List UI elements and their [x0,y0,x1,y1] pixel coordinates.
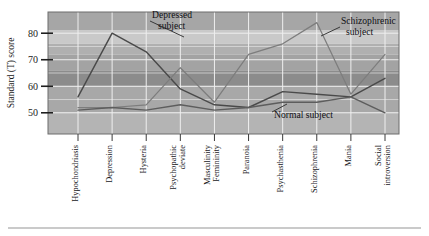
x-category-label-3-line1: Psychopathic [169,145,178,190]
annotation-schizophrenic-line2: subject [346,26,374,37]
x-category-label-9-line2: introversion [383,144,392,185]
annotation-depressed-line2: subject [158,20,186,31]
annotation-schizophrenic-line1: Schizophrenic [341,15,396,26]
y-tick-label-50: 50 [28,107,38,118]
x-category-label-0: Hypochondriasis [71,145,80,202]
plot-band-6 [48,113,399,134]
annotation-depressed-line1: Depressed [152,9,192,20]
y-tick-label-60: 60 [28,81,38,92]
x-category-label-1: Depression [105,144,114,182]
plot-band-2 [48,44,399,55]
x-category-label-4-line1: Masculinity [203,144,212,185]
y-axis-label: Standard (T) score [6,38,17,109]
x-category-label-9-line1: Social [374,144,383,166]
x-category-label-3-line2: deviate [178,145,187,169]
annotation-normal-line1: Normal subject [274,109,333,120]
mmpi-profile-chart: 50607080 Standard (T) score Hypochondria… [0,0,429,236]
x-category-label-6: Psychasthenia [276,145,285,193]
y-tick-label-80: 80 [28,28,38,39]
plot-band-3 [48,54,399,70]
chart-figure: 50607080 Standard (T) score Hypochondria… [0,0,429,236]
x-category-label-4-line2: Femininity [212,144,221,182]
x-category-label-8: Mania [344,145,353,167]
x-category-label-2: Hysteria [139,145,148,174]
x-category-label-5: Paranoia [242,145,251,175]
x-category-label-7: Schizophrenia [310,145,319,193]
y-tick-label-70: 70 [28,54,38,65]
